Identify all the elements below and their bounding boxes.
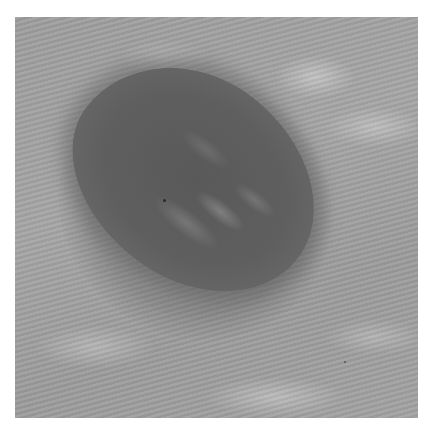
dark-dot xyxy=(163,199,166,202)
skin-speck xyxy=(344,361,346,363)
skin-lesion-photo xyxy=(15,17,418,418)
